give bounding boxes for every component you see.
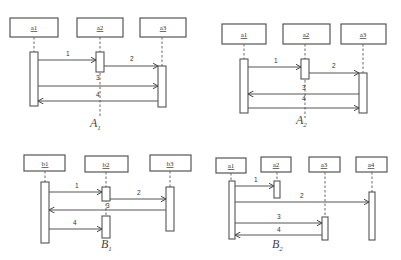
activation-bar [240,59,248,113]
participant-label: a2 [97,24,104,32]
participant-label: a3 [360,31,367,39]
diagram-caption: B2 [272,237,283,253]
message-label: 4 [277,226,281,233]
participant-a3: a3 [140,18,186,37]
message-label: 3 [106,202,110,209]
activation-bar [322,217,328,240]
diagram-b2: a1 a2 a3 a4 1 2 3 4 B2 [216,157,387,253]
message-label: 1 [75,182,79,189]
message-label: 1 [274,57,278,64]
activation-bar [158,66,166,107]
activation-bar [41,182,49,243]
participant-b1: b1 [24,155,65,171]
message-label: 2 [130,55,134,62]
activation-bar [102,216,110,238]
participant-a1: a1 [10,18,58,37]
activation-bar [102,187,110,201]
participant-label: a2 [303,31,310,39]
participant-b3: b3 [150,155,191,171]
participant-label: b3 [167,160,175,168]
sequence-diagrams-canvas: a1 a2 a3 1 2 3 4 A1 a1 a2 [0,0,401,260]
message-label: 1 [66,50,70,57]
message-label: 3 [302,84,306,91]
participant-a3: a3 [309,157,340,172]
diagram-b1: b1 b2 b3 1 2 3 4 B1 [24,155,191,253]
participant-label: a1 [31,24,38,32]
participant-a2: a2 [261,157,291,172]
message-label: 4 [302,95,306,102]
message-label: 4 [73,219,77,226]
activation-bar [359,73,367,113]
activation-bar [274,181,280,198]
message-label: 3 [277,213,281,220]
participant-label: a4 [368,161,375,169]
message-label: 4 [96,91,100,98]
participant-a2: a2 [77,18,123,37]
activation-bar [30,52,38,106]
message-label: 3 [96,74,100,81]
diagram-caption: B1 [101,237,112,253]
activation-bar [96,52,104,72]
participant-a4: a4 [356,157,387,172]
participant-a1: a1 [216,158,246,173]
message-label: 2 [332,62,336,69]
message-label: 1 [254,176,258,183]
participant-label: b2 [103,161,111,169]
participant-label: a2 [273,161,280,169]
participant-a2: a2 [283,24,330,44]
diagram-caption: A1 [89,116,101,132]
participant-a1: a1 [222,24,266,44]
activation-bar [229,181,235,239]
diagram-a2: a1 a2 a3 1 2 3 4 A2 [222,24,386,129]
activation-bar [166,187,174,231]
message-label: 2 [137,189,141,196]
participant-a3: a3 [341,24,386,44]
diagram-a1: a1 a2 a3 1 2 3 4 A1 [10,18,186,132]
participant-label: a3 [160,24,167,32]
message-label: 2 [300,192,304,199]
participant-b2: b2 [85,156,128,172]
activation-bar [301,59,309,79]
diagram-caption: A2 [295,113,307,129]
participant-label: a3 [321,161,328,169]
activation-bar [369,192,375,240]
participant-label: b1 [42,160,50,168]
participant-label: a1 [228,162,235,170]
participant-label: a1 [241,31,248,39]
